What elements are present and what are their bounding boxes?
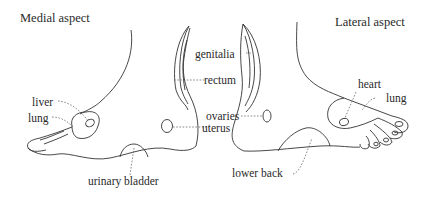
lateral-heel-back [232, 24, 244, 151]
medial-band-outer [175, 26, 189, 110]
lung-lateral-leader [362, 98, 375, 110]
lateral-toenail-1 [395, 122, 403, 127]
foot-reflexology-diagram: Medial aspect Lateral aspect liver lung … [0, 0, 429, 197]
lateral-foot [232, 22, 408, 174]
lateral-toenail-4 [374, 142, 378, 146]
diagram-drawing [0, 0, 429, 197]
label-lung-medial: lung [28, 113, 48, 125]
heart-leader [345, 92, 356, 118]
medial-sole [28, 146, 196, 159]
medial-ball-region [72, 112, 100, 139]
label-lung-lateral: lung [386, 93, 406, 105]
medial-foot [28, 26, 210, 175]
label-uterus: uterus [202, 123, 230, 135]
label-ovaries: ovaries [206, 111, 239, 123]
lateral-sole [244, 146, 360, 151]
medial-leg-line [100, 30, 132, 102]
medial-toes [28, 127, 73, 151]
medial-liver-zone [84, 118, 95, 129]
label-rectum: rectum [204, 75, 236, 87]
label-heart: heart [358, 79, 381, 91]
medial-toe-line-1 [40, 131, 64, 140]
lower-back-leader [293, 138, 312, 174]
label-urinary-bladder: urinary bladder [88, 176, 159, 188]
lateral-toe-5 [360, 136, 369, 149]
ovaries-zone [263, 110, 271, 122]
lateral-pad-region [328, 98, 378, 129]
heart-zone [339, 117, 350, 126]
lateral-instep [344, 98, 392, 116]
medial-aspect-title: Medial aspect [20, 12, 90, 25]
lateral-leg-line [297, 22, 344, 98]
uterus-zone [162, 120, 173, 133]
label-genitalia: genitalia [195, 49, 235, 61]
bladder-zone [120, 144, 148, 157]
label-lower-back: lower back [232, 168, 283, 180]
lateral-band-inner [245, 36, 250, 88]
lung-leader [52, 117, 74, 128]
lateral-aspect-title: Lateral aspect [335, 16, 405, 29]
label-liver: liver [32, 97, 53, 109]
lateral-toenail-3 [384, 138, 389, 142]
